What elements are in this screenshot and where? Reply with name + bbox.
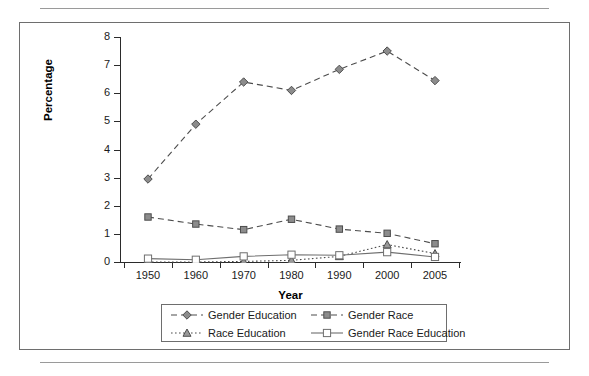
x-axis-tick-label: 2000 [360,270,414,281]
series-gender-education [144,47,439,183]
x-axis-tick-label: 1960 [169,270,223,281]
legend-swatch-triangle-icon [170,326,204,340]
y-axis-tick-label: 4 [84,144,110,155]
legend-entry-gender-education: Gender Education [170,305,310,324]
horizontal-rule-bottom [40,362,549,363]
x-axis-tick-label: 1990 [312,270,366,281]
y-axis-tick-label: 2 [84,200,110,211]
x-axis-tick-label: 2005 [408,270,462,281]
y-axis-tick-label: 8 [84,31,110,42]
plot-wrapper: 012345678 1950196019701980199020002005 P… [20,23,571,351]
y-axis-tick-label: 0 [84,256,110,267]
chart-panel: 012345678 1950196019701980199020002005 P… [19,22,570,350]
y-axis-tick-label: 1 [84,228,110,239]
series-plot [120,37,461,263]
y-axis-tick-label: 3 [84,172,110,183]
legend-label: Gender Race [348,309,413,321]
legend-label: Race Education [208,327,286,339]
y-axis-title: Percentage [42,59,54,121]
chart-legend: Gender Education Gender Race Race Educat… [161,304,447,342]
legend-entry-race-education: Race Education [170,323,310,342]
y-axis-tick-label: 6 [84,87,110,98]
legend-label: Gender Race Education [348,327,465,339]
x-axis-tick-label: 1970 [217,270,271,281]
legend-swatch-diamond-icon [170,308,204,322]
legend-swatch-square-filled-icon [310,308,344,322]
y-axis-tick-label: 5 [84,115,110,126]
horizontal-rule-top [40,8,549,9]
x-axis-tick-label: 1950 [121,270,175,281]
x-axis-title: Year [120,289,461,301]
legend-entry-gender-race-education: Gender Race Education [310,323,446,342]
y-axis-tick-label: 7 [84,59,110,70]
legend-swatch-square-open-icon [310,326,344,340]
series-gender-race [145,214,438,247]
x-axis-tick-label: 1980 [265,270,319,281]
figure-page: 012345678 1950196019701980199020002005 P… [0,0,589,376]
legend-entry-gender-race: Gender Race [310,305,446,324]
legend-label: Gender Education [208,309,297,321]
